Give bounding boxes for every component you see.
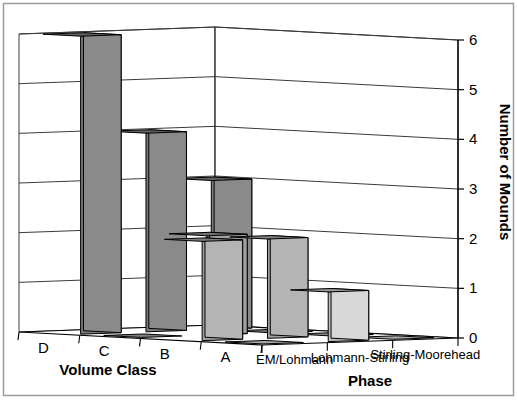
bar-chart-3d: 0123456Number of MoundsABCDVolume ClassE…: [0, 0, 517, 400]
y-axis-tick-label-3: 3: [469, 180, 477, 197]
volume-axis-tick-3: [79, 335, 80, 343]
y-axis-title: Number of Mounds: [497, 104, 514, 241]
volume-class-axis-title: Volume Class: [59, 361, 156, 378]
volume-axis-tick-1: [200, 342, 201, 350]
volume-class-label-D: D: [38, 339, 49, 356]
phase-axis-title: Phase: [348, 372, 392, 389]
y-axis-tick-label-4: 4: [469, 130, 477, 147]
y-axis-tick-label-0: 0: [469, 329, 477, 346]
bar-face: [205, 238, 243, 339]
y-axis-tick-label-6: 6: [469, 31, 477, 48]
bar-face: [331, 288, 369, 340]
volume-class-label-A: A: [221, 348, 231, 365]
chart-container: 0123456Number of MoundsABCDVolume ClassE…: [0, 0, 517, 400]
y-axis-tick-label-1: 1: [469, 279, 477, 296]
volume-class-label-C: C: [99, 342, 110, 359]
volume-axis-tick-4: [18, 332, 19, 340]
phase-label-2: Stirling-Moorehead: [370, 347, 480, 362]
volume-axis-tick-2: [140, 339, 141, 347]
volume-class-label-B: B: [160, 345, 170, 362]
y-axis-tick-label-5: 5: [469, 81, 477, 98]
bar-face: [83, 33, 121, 333]
bar-face: [149, 130, 187, 331]
bar-face: [270, 236, 308, 337]
y-axis-tick-label-2: 2: [469, 230, 477, 247]
